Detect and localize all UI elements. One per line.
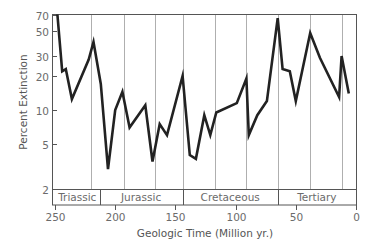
period-label-cretaceous: Cretaceous [201, 191, 260, 203]
y-tick-label: 2 [42, 184, 49, 196]
y-tick-label: 20 [36, 71, 49, 83]
y-tick-label: 10 [36, 105, 49, 117]
y-tick-label: 30 [36, 51, 49, 63]
x-tick-label: 100 [226, 211, 246, 223]
x-tick-label: 200 [105, 211, 125, 223]
x-tick-label: 250 [45, 211, 65, 223]
x-tick-label: 0 [353, 211, 360, 223]
x-tick-label: 150 [165, 211, 185, 223]
x-tick-label: 50 [290, 211, 303, 223]
vertical-gridlines [92, 15, 343, 190]
x-axis: 250200150100500 [45, 205, 359, 223]
extinction-chart: TriassicJurassicCretaceousTertiary 25102… [0, 0, 370, 248]
y-tick-label: 70 [36, 10, 49, 22]
extinction-series-line [57, 15, 348, 170]
x-axis-title: Geologic Time (Million yr.) [137, 227, 273, 239]
period-band: TriassicJurassicCretaceousTertiary [57, 190, 336, 206]
y-tick-label: 5 [42, 139, 49, 151]
period-label-jurassic: Jurassic [120, 191, 161, 203]
period-label-triassic: Triassic [57, 191, 96, 203]
y-axis: 251020305070 [36, 10, 57, 196]
period-label-tertiary: Tertiary [296, 191, 336, 203]
y-axis-title: Percent Extinction [17, 54, 29, 149]
y-tick-label: 50 [36, 26, 49, 38]
